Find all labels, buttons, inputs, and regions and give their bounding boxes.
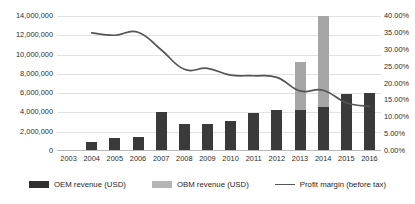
y-axis-left-tick-label: 14,000,000: [1, 12, 53, 19]
x-axis-tick-label: 2003: [60, 155, 76, 162]
legend-oem-swatch-icon: [29, 181, 49, 188]
y-axis-left-tick-label: 2,000,000: [1, 128, 53, 135]
y-axis-right-tick-label: 20.00%: [384, 80, 415, 87]
y-axis-right-tick-label: 15.00%: [384, 97, 415, 104]
legend-obm-swatch-icon: [152, 181, 172, 188]
y-axis-left-tick-label: 0: [1, 147, 53, 154]
x-axis-tick-label: 2007: [153, 155, 169, 162]
y-axis-left: 02,000,0004,000,0006,000,0008,000,00010,…: [0, 16, 53, 151]
x-axis-tick-label: 2004: [83, 155, 99, 162]
x-axis-tick-label: 2015: [338, 155, 354, 162]
legend-label: Profit margin (before tax): [300, 181, 386, 189]
y-axis-left-tick-label: 4,000,000: [1, 109, 53, 116]
profit-margin-path: [92, 31, 370, 106]
y-axis-right-tick-label: 25.00%: [384, 63, 415, 70]
combo-chart: 02,000,0004,000,0006,000,0008,000,00010,…: [0, 0, 415, 204]
y-axis-right-tick-label: 35.00%: [384, 29, 415, 36]
y-axis-right-tick-label: 10.00%: [384, 114, 415, 121]
y-axis-right-tick-label: 5.00%: [384, 130, 415, 137]
x-axis-tick-label: 2016: [361, 155, 377, 162]
legend-label: OEM revenue (USD): [54, 181, 126, 189]
y-axis-left-tick-label: 10,000,000: [1, 51, 53, 58]
x-axis-tick-label: 2008: [176, 155, 192, 162]
legend-item[interactable]: OBM revenue (USD): [152, 181, 249, 189]
legend-item[interactable]: OEM revenue (USD): [29, 181, 126, 189]
x-axis: 2003200420052006200720082009201020112012…: [57, 153, 381, 167]
profit-margin-line-series: [57, 16, 381, 151]
y-axis-left-tick-label: 8,000,000: [1, 70, 53, 77]
x-axis-tick-label: 2006: [130, 155, 146, 162]
x-axis-tick-label: 2009: [199, 155, 215, 162]
y-axis-left-tick-label: 12,000,000: [1, 32, 53, 39]
y-axis-right-tick-label: 0.00%: [384, 147, 415, 154]
chart-legend: OEM revenue (USD)OBM revenue (USD)Profit…: [0, 176, 415, 194]
x-axis-tick-label: 2005: [107, 155, 123, 162]
plot-area: [57, 16, 381, 151]
x-axis-tick-label: 2012: [269, 155, 285, 162]
x-axis-tick-label: 2014: [315, 155, 331, 162]
y-axis-right-tick-label: 40.00%: [384, 12, 415, 19]
y-axis-right-tick-label: 30.00%: [384, 46, 415, 53]
x-axis-tick-label: 2010: [222, 155, 238, 162]
legend-label: OBM revenue (USD): [177, 181, 249, 189]
y-axis-right: 0.00%5.00%10.00%15.00%20.00%25.00%30.00%…: [384, 16, 415, 151]
legend-item[interactable]: Profit margin (before tax): [275, 181, 386, 189]
legend-line-swatch-icon: [275, 184, 295, 185]
axis-baseline: [57, 150, 381, 151]
y-axis-left-tick-label: 6,000,000: [1, 89, 53, 96]
x-axis-tick-label: 2013: [292, 155, 308, 162]
x-axis-tick-label: 2011: [246, 155, 262, 162]
